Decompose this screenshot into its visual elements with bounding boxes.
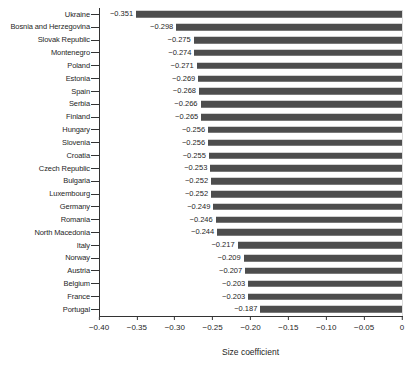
bar-track: −0.246	[99, 213, 402, 226]
bar	[194, 50, 402, 57]
bar-track: −0.203	[99, 290, 402, 303]
y-tick-mark	[91, 232, 99, 233]
x-tick: −0.05	[354, 317, 374, 332]
chart-row: Czech Republic −0.253	[0, 162, 402, 175]
chart-row: Serbia −0.266	[0, 98, 402, 111]
chart-row: Montenegro −0.274	[0, 46, 402, 59]
x-tick: −0.10	[316, 317, 336, 332]
bar-track: −0.187	[99, 303, 402, 316]
bar-track: −0.271	[99, 59, 402, 72]
x-tick: −0.15	[278, 317, 298, 332]
y-tick-label: Germany	[0, 203, 90, 211]
x-tick-label: −0.05	[354, 324, 374, 332]
chart-row: Finland −0.265	[0, 111, 402, 124]
bar-value-label: −0.271	[171, 62, 194, 70]
x-tick-mark	[401, 317, 402, 320]
y-tick-label: Bosnia and Herzegovina	[0, 23, 90, 31]
y-tick-mark	[91, 27, 99, 28]
y-tick-label: Croatia	[0, 152, 90, 160]
bar-track: −0.252	[99, 175, 402, 188]
x-tick: −0.40	[89, 317, 109, 332]
x-tick-label: 0	[400, 324, 404, 332]
bar-value-label: −0.298	[150, 23, 173, 31]
x-tick-label: −0.40	[89, 324, 109, 332]
y-tick-label: Ukraine	[0, 11, 90, 19]
y-tick-mark	[91, 206, 99, 207]
bar-track: −0.203	[99, 277, 402, 290]
bar-value-label: −0.246	[190, 216, 213, 224]
bar	[248, 293, 402, 300]
y-tick-label: Austria	[0, 267, 90, 275]
bar	[201, 101, 402, 108]
chart-row: Slovak Republic −0.275	[0, 34, 402, 47]
plot-area: Ukraine −0.351 Bosnia and Herzegovina −0…	[0, 8, 402, 316]
bar-value-label: −0.203	[222, 280, 245, 288]
bar-track: −0.256	[99, 123, 402, 136]
y-tick-label: Belgium	[0, 280, 90, 288]
chart-row: Spain −0.268	[0, 85, 402, 98]
bar	[136, 11, 402, 18]
x-tick-label: −0.10	[316, 324, 336, 332]
x-tick-mark	[364, 317, 365, 320]
x-tick-label: −0.25	[203, 324, 223, 332]
y-tick-mark	[91, 65, 99, 66]
chart-row: Germany −0.249	[0, 200, 402, 213]
bar-value-label: −0.252	[185, 190, 208, 198]
y-tick-mark	[91, 155, 99, 156]
bar	[211, 178, 402, 185]
bar-value-label: −0.265	[175, 113, 198, 121]
y-tick-mark	[91, 168, 99, 169]
x-tick-label: −0.35	[127, 324, 147, 332]
bar-track: −0.253	[99, 162, 402, 175]
y-tick-mark	[91, 117, 99, 118]
bar-value-label: −0.268	[173, 88, 196, 96]
x-tick: 0	[400, 317, 404, 332]
y-tick-label: Luxembourg	[0, 190, 90, 198]
bar-value-label: −0.249	[187, 203, 210, 211]
bar	[198, 75, 402, 82]
chart-row: Romania −0.246	[0, 213, 402, 226]
bar-track: −0.207	[99, 265, 402, 278]
x-tick: −0.20	[240, 317, 260, 332]
y-tick-mark	[91, 219, 99, 220]
bar-track: −0.274	[99, 46, 402, 59]
bar	[260, 306, 402, 313]
chart-row: Poland −0.271	[0, 59, 402, 72]
bar	[244, 255, 402, 262]
y-tick-mark	[91, 270, 99, 271]
x-tick-mark	[174, 317, 175, 320]
x-tick-mark	[250, 317, 251, 320]
y-tick-label: Finland	[0, 113, 90, 121]
y-tick-mark	[91, 181, 99, 182]
y-tick-label: Portugal	[0, 306, 90, 314]
bar-track: −0.298	[99, 21, 402, 34]
y-tick-mark	[91, 142, 99, 143]
y-tick-label: Montenegro	[0, 49, 90, 57]
y-tick-label: North Macedonia	[0, 229, 90, 237]
bar	[208, 139, 402, 146]
y-tick-mark	[91, 283, 99, 284]
bar-track: −0.265	[99, 111, 402, 124]
bar	[217, 229, 402, 236]
bar-value-label: −0.269	[172, 75, 195, 83]
bar-value-label: −0.351	[110, 11, 133, 19]
y-tick-mark	[91, 129, 99, 130]
y-axis-line	[99, 8, 100, 317]
bar-track: −0.268	[99, 85, 402, 98]
x-tick: −0.30	[165, 317, 185, 332]
y-tick-label: Bulgaria	[0, 177, 90, 185]
y-tick-mark	[91, 104, 99, 105]
bar	[213, 204, 402, 211]
chart-row: Bulgaria −0.252	[0, 175, 402, 188]
bar-value-label: −0.255	[183, 152, 206, 160]
bar-value-label: −0.253	[184, 165, 207, 173]
y-tick-label: Norway	[0, 254, 90, 262]
bar-track: −0.256	[99, 136, 402, 149]
y-tick-label: Romania	[0, 216, 90, 224]
chart-row: Slovenia −0.256	[0, 136, 402, 149]
chart-row: Hungary −0.256	[0, 123, 402, 136]
y-tick-label: Slovak Republic	[0, 36, 90, 44]
x-tick-label: −0.20	[240, 324, 260, 332]
bar-value-label: −0.266	[174, 100, 197, 108]
bar	[248, 281, 402, 288]
